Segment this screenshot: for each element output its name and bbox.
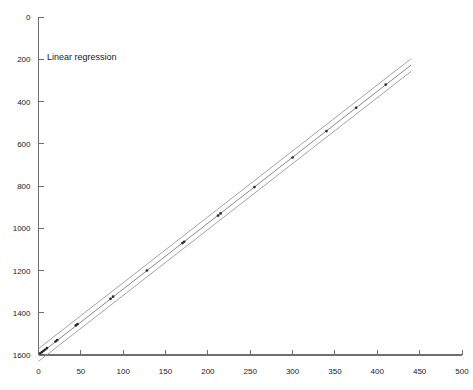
data-point-marker [355,106,358,109]
data-point-marker [76,323,79,326]
data-point-marker [384,83,387,86]
data-point-marker [291,156,294,159]
y-tick-label: 1000 [13,224,31,233]
linear-regression-chart: 16001400120010008006004002000 0501001502… [0,0,473,390]
data-point-marker [183,240,186,243]
data-point-marker [112,295,115,298]
data-point-marker [109,297,112,300]
x-tick-label: 50 [76,367,85,376]
y-tick-label: 400 [17,98,31,107]
x-tick-label: 100 [117,367,131,376]
data-point-marker [56,339,59,342]
x-tick-label: 400 [371,367,385,376]
y-tick-label: 600 [17,140,31,149]
data-point-marker [253,186,256,189]
x-tick-label: 250 [244,367,258,376]
axes-group [39,17,463,355]
x-tick-label: 450 [413,367,427,376]
x-tick-label: 150 [159,367,173,376]
y-tick-label: 1400 [13,309,31,318]
data-point-marker [146,269,149,272]
y-tick-labels-group: 16001400120010008006004002000 [13,13,31,360]
x-tick-label: 500 [455,367,469,376]
lower-confidence-band [39,71,412,361]
x-tick-label: 300 [286,367,300,376]
x-tick-label: 200 [201,367,215,376]
y-tick-label: 0 [26,13,31,22]
x-tick-label: 350 [328,367,342,376]
data-point-marker [46,347,49,350]
annotation-linear-regression: Linear regression [47,52,117,62]
data-point-marker [217,214,220,217]
y-tick-label: 800 [17,182,31,191]
x-tick-label: 0 [36,367,41,376]
y-tick-label: 1600 [13,351,31,360]
plot-canvas: 16001400120010008006004002000 0501001502… [0,0,473,390]
x-tick-labels-group: 050100150200250300350400450500 [36,367,469,376]
data-point-marker [219,212,222,215]
upper-confidence-band [39,59,412,349]
y-tick-label: 1200 [13,267,31,276]
data-point-marker [325,130,328,133]
y-tick-label: 200 [17,55,31,64]
